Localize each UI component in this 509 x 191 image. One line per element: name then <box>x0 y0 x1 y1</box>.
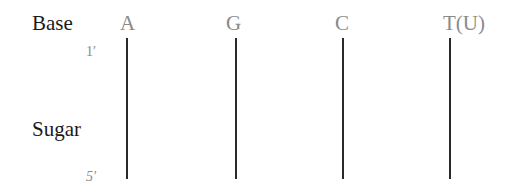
strand-line-c <box>342 38 344 179</box>
strand-line-g <box>235 38 237 179</box>
base-label-a: A <box>120 13 135 34</box>
base-label-c: C <box>335 13 349 34</box>
sugar-row-label: Sugar <box>32 119 81 140</box>
prime-5-label: 5′ <box>86 170 96 184</box>
base-row-label: Base <box>32 13 73 34</box>
prime-1-label: 1′ <box>86 45 96 59</box>
strand-line-t-u <box>449 38 451 179</box>
base-label-g: G <box>226 13 241 34</box>
strand-line-a <box>126 38 128 179</box>
base-label-t-u: T(U) <box>443 13 485 34</box>
